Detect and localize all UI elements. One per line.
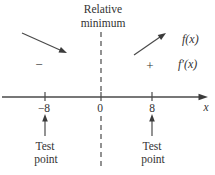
fx-label: f(x) xyxy=(182,32,199,46)
minus-sign: − xyxy=(35,57,42,72)
x-axis xyxy=(2,92,208,101)
figure-title-line2: minimum xyxy=(81,17,126,29)
sign-chart-figure: Relative minimum − + f(x) f′(x) xyxy=(0,0,215,175)
tick-label-zero: 0 xyxy=(97,102,103,114)
increasing-arrow-icon xyxy=(134,33,166,55)
test-point-left-line2: point xyxy=(34,153,58,166)
test-point-right-line2: point xyxy=(141,153,165,166)
x-axis-label: x xyxy=(202,101,209,113)
tick-label-pos8: 8 xyxy=(149,102,155,114)
plus-sign: + xyxy=(146,58,153,73)
test-point-arrow-right-icon xyxy=(149,114,155,136)
figure-title-line1: Relative xyxy=(84,3,122,15)
figure-canvas: Relative minimum − + f(x) f′(x) xyxy=(0,0,215,175)
test-point-left-line1: Test xyxy=(36,140,56,152)
test-point-right-line1: Test xyxy=(143,140,163,152)
axis-arrow-icon xyxy=(199,94,209,100)
test-point-arrow-left-icon xyxy=(42,114,48,136)
tick-label-neg8: −8 xyxy=(38,102,50,114)
f-prime-label: f′(x) xyxy=(178,57,197,71)
decreasing-arrow-icon xyxy=(22,33,67,53)
